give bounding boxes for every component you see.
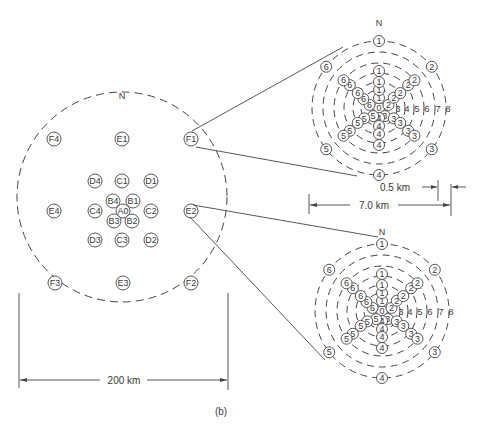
site-ring6-4: 4 [377, 373, 388, 384]
svg-text:4: 4 [379, 332, 384, 342]
svg-text:2: 2 [398, 88, 403, 98]
svg-text:2: 2 [401, 291, 406, 301]
svg-text:0: 0 [379, 306, 384, 316]
main-array: N F4E1F1D4C1D1B4B1E4C4A0C2E2B3B2D3C3D2F3… [17, 91, 228, 417]
svg-text:F2: F2 [186, 278, 197, 288]
site-ring5-2: 2 [412, 278, 423, 289]
svg-text:D4: D4 [89, 176, 101, 186]
svg-text:5: 5 [371, 111, 376, 121]
ring-number-4: 4 [407, 307, 412, 317]
bottom-north-label: N [379, 227, 386, 237]
subarray-bottom: 0123456123456123456123456235612345634567… [315, 239, 454, 384]
station-c4: C4 [88, 204, 102, 218]
svg-text:5: 5 [327, 347, 332, 357]
svg-text:3: 3 [412, 131, 417, 141]
ring-number-8: 8 [445, 104, 450, 114]
svg-text:F1: F1 [186, 134, 197, 144]
svg-text:6: 6 [355, 88, 360, 98]
station-d2: D2 [144, 233, 158, 247]
site-ring6-1: 1 [377, 239, 388, 250]
svg-text:1: 1 [376, 66, 381, 76]
svg-text:E4: E4 [48, 206, 59, 216]
top-north-label: N [376, 18, 383, 28]
svg-text:B4: B4 [107, 196, 118, 206]
scale-label-7km: 7.0 km [359, 200, 389, 211]
svg-text:1: 1 [379, 280, 384, 290]
station-c2: C2 [144, 204, 158, 218]
svg-text:3: 3 [429, 144, 434, 154]
svg-text:1: 1 [379, 239, 384, 249]
site-ring5-6: 6 [341, 278, 352, 289]
site-ring3-1: 1 [377, 280, 388, 291]
station-d4: D4 [88, 174, 102, 188]
site-ring6-2: 2 [426, 61, 437, 72]
station-f3: F3 [48, 276, 62, 290]
site-ring6-5: 5 [324, 347, 335, 358]
svg-text:6: 6 [344, 278, 349, 288]
svg-text:3: 3 [415, 334, 420, 344]
svg-text:5: 5 [358, 321, 363, 331]
site-ring4-4: 4 [374, 140, 385, 151]
svg-text:6: 6 [358, 291, 363, 301]
svg-text:4: 4 [376, 170, 381, 180]
ring-number-3: 3 [398, 307, 403, 317]
svg-text:C1: C1 [116, 176, 128, 186]
svg-text:2: 2 [412, 75, 417, 85]
scale-label-0-5km: 0.5 km [380, 182, 410, 193]
main-stations: F4E1F1D4C1D1B4B1E4C4A0C2E2B3B2D3C3D2F3E3… [47, 132, 198, 290]
svg-text:6: 6 [341, 75, 346, 85]
svg-text:5: 5 [344, 334, 349, 344]
svg-text:4: 4 [376, 140, 381, 150]
station-e1: E1 [115, 132, 129, 146]
svg-text:B3: B3 [108, 216, 119, 226]
svg-text:3: 3 [401, 321, 406, 331]
svg-text:B1: B1 [127, 196, 138, 206]
site-ring6-3: 3 [426, 144, 437, 155]
svg-text:6: 6 [324, 62, 329, 72]
svg-text:2: 2 [429, 62, 434, 72]
site-ring6-4: 4 [374, 170, 385, 181]
ring-number-5: 5 [417, 307, 422, 317]
svg-text:5: 5 [324, 144, 329, 154]
svg-text:C3: C3 [116, 235, 128, 245]
site-ring6-3: 3 [429, 347, 440, 358]
svg-text:F3: F3 [50, 278, 61, 288]
array-diagram: N F4E1F1D4C1D1B4B1E4C4A0C2E2B3B2D3C3D2F3… [0, 0, 483, 434]
scale-label-200km: 200 km [108, 375, 141, 386]
site-ring3-4: 4 [374, 129, 385, 140]
site-ring5-3: 3 [412, 333, 423, 344]
station-e2: E2 [184, 204, 198, 218]
station-c3: C3 [115, 233, 129, 247]
main-north-label: N [119, 91, 126, 101]
svg-text:E1: E1 [116, 134, 127, 144]
ring-number-3: 3 [395, 104, 400, 114]
svg-text:A0: A0 [117, 206, 128, 216]
site-ring5-5: 5 [338, 130, 349, 141]
subarray-top: 0123456123456123456123456235612345634567… [312, 36, 451, 181]
svg-text:5: 5 [355, 118, 360, 128]
svg-text:1: 1 [379, 269, 384, 279]
site-ring6-6: 6 [324, 264, 335, 275]
site-ring5-6: 6 [338, 75, 349, 86]
ring-number-8: 8 [448, 307, 453, 317]
svg-text:C4: C4 [89, 206, 101, 216]
svg-text:D3: D3 [89, 235, 101, 245]
site-ring4-4: 4 [377, 343, 388, 354]
svg-text:0: 0 [376, 103, 381, 113]
site-ring4-1: 1 [374, 66, 385, 77]
zoom-connectors [190, 47, 378, 360]
figure-label: (b) [215, 406, 227, 417]
svg-text:4: 4 [376, 129, 381, 139]
ring-number-6: 6 [427, 307, 432, 317]
svg-text:F4: F4 [49, 134, 60, 144]
site-ring6-5: 5 [321, 144, 332, 155]
svg-text:2: 2 [432, 265, 437, 275]
svg-text:4: 4 [379, 373, 384, 383]
svg-text:E3: E3 [117, 278, 128, 288]
site-ring5-3: 3 [409, 130, 420, 141]
svg-text:1: 1 [376, 36, 381, 46]
main-array-boundary [17, 92, 227, 302]
svg-text:3: 3 [432, 347, 437, 357]
site-ring3-4: 4 [377, 332, 388, 343]
ring-number-7: 7 [435, 104, 440, 114]
